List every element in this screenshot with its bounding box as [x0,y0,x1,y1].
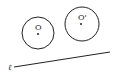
geometry-diagram: O O' ℓ [0,0,118,75]
circle-o: O [22,17,54,49]
center-point-o-prime [80,23,82,25]
center-point-o [37,33,39,35]
label-o-prime: O' [78,13,87,22]
circle-o-prime: O' [65,7,99,41]
label-line-l: ℓ [8,63,12,72]
label-o: O [35,23,42,32]
line-l: ℓ [8,52,110,72]
